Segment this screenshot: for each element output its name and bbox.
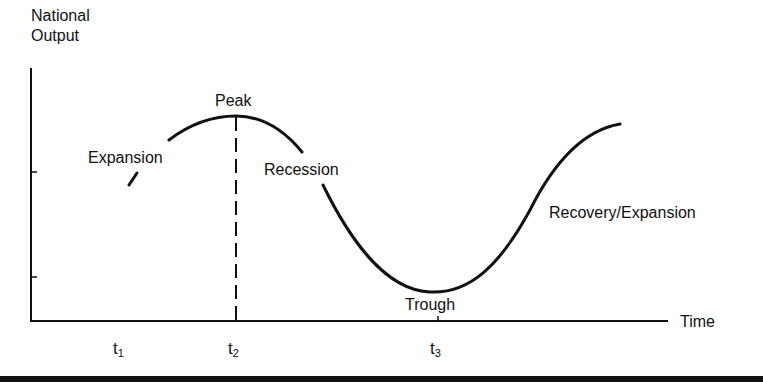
y-axis-label-line2: Output — [31, 28, 79, 44]
peak-label: Peak — [215, 93, 251, 109]
expansion-label: Expansion — [88, 150, 163, 166]
curve-expansion-start — [129, 173, 137, 185]
recession-label: Recession — [264, 162, 339, 178]
bottom-rule — [0, 376, 763, 382]
x-tick-label-t1: t1 — [113, 340, 124, 359]
x-axis-label: Time — [680, 314, 715, 330]
business-cycle-chart — [0, 0, 763, 386]
x-tick-label-t3: t3 — [430, 340, 441, 359]
y-axis-label-line1: National — [31, 8, 90, 24]
x-tick-label-t2: t2 — [228, 340, 239, 359]
recovery-expansion-label: Recovery/Expansion — [549, 205, 696, 221]
trough-label: Trough — [405, 297, 455, 313]
